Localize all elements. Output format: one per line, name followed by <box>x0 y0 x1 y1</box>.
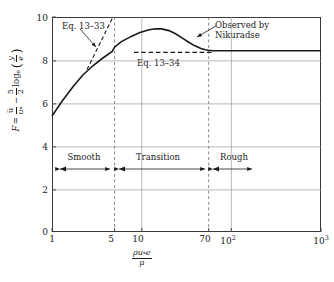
eq-13-33-leader-arrow <box>80 29 96 47</box>
chart-root: 10 8 6 4 2 0 1 5 10 70 102 103 F = u̅ u*… <box>0 0 334 282</box>
vertical-gridlines-solid <box>142 17 232 232</box>
tick-marks <box>52 17 321 232</box>
chart-overlay <box>0 0 334 282</box>
eq-13-33-dashed-line <box>87 17 113 70</box>
nikuradse-curve <box>52 29 321 116</box>
vertical-gridlines-dashed <box>115 17 209 232</box>
horizontal-gridlines <box>52 61 321 190</box>
observed-leader-arrow <box>197 26 216 37</box>
